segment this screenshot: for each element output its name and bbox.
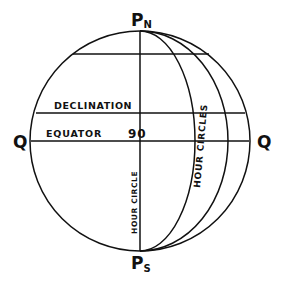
equator-label: EQUATOR xyxy=(46,128,102,139)
celestial-sphere-diagram: PN PS Q Q DECLINATION EQUATOR 90 HOUR CI… xyxy=(0,0,284,295)
angle-90-label: 90 xyxy=(128,127,147,141)
south-pole-label: PS xyxy=(131,253,151,274)
declination-label: DECLINATION xyxy=(54,100,132,111)
north-pole-label: PN xyxy=(131,10,152,30)
q-left-label: Q xyxy=(13,132,27,152)
q-right-label: Q xyxy=(257,132,271,152)
hour-circle-label: HOUR CIRCLE xyxy=(130,171,139,234)
